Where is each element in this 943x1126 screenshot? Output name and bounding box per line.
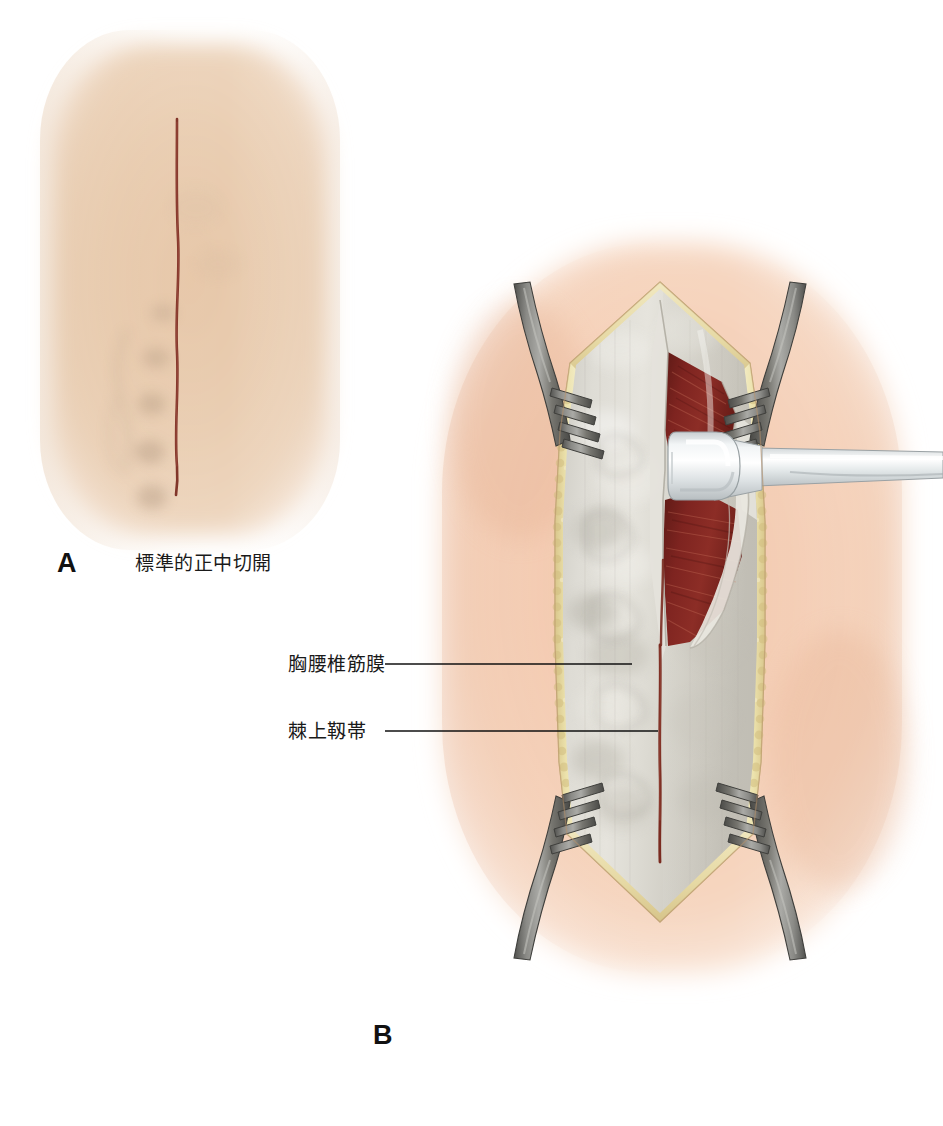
panel-a-caption: 標準的正中切開 — [135, 554, 272, 573]
annotation-label-supraspinous-ligament: 棘上靱帯 — [288, 722, 366, 741]
panel-a-letter: A — [57, 550, 77, 577]
figure-root: A 標準的正中切開 胸腰椎筋膜 棘上靱帯 B — [0, 0, 943, 1126]
panel-b-illustration — [442, 243, 943, 973]
panel-b-letter: B — [373, 1022, 393, 1049]
annotation-label-thoracolumbar-fascia: 胸腰椎筋膜 — [288, 655, 386, 674]
panel-a-illustration — [40, 30, 340, 550]
